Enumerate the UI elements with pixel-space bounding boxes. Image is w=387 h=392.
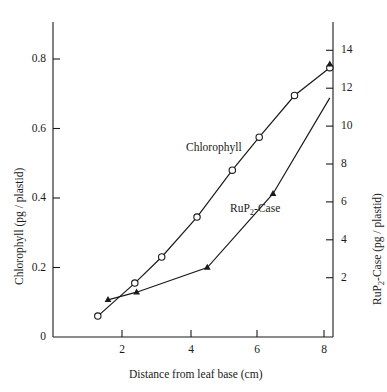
data-point-chlorophyll (229, 167, 235, 173)
right-axis-tick-label: 10 (341, 120, 353, 132)
data-point-chlorophyll (291, 92, 297, 98)
chart-figure: 0.8 0.6 0.4 0.2 0 14 12 10 8 6 4 2 2 4 6… (0, 0, 387, 392)
data-point-chlorophyll (95, 313, 101, 319)
y-axis-title-right: RuP2-Case (pg / plastid) (372, 193, 386, 305)
series-markers-rup2-case (105, 60, 334, 302)
x-axis-tick-label: 4 (176, 344, 206, 356)
series-line-chlorophyll (98, 68, 330, 316)
series-markers-chlorophyll (95, 65, 333, 320)
series-line-rup2-case (108, 98, 330, 300)
series-annotation-chlorophyll: Chlorophyll (186, 142, 242, 154)
data-point-chlorophyll (159, 254, 165, 260)
right-axis-ticks (326, 50, 333, 277)
right-axis-tick-label: 6 (341, 196, 347, 208)
x-axis-tick-label: 8 (309, 344, 339, 356)
left-axis-tick-label: 0 (16, 331, 46, 343)
data-point-chlorophyll (132, 280, 138, 286)
right-axis-tick-label: 8 (341, 158, 347, 170)
y-axis-title-right-prefix: RuP (371, 285, 383, 305)
bottom-axis-ticks (122, 330, 324, 337)
series-annotation-rup2-suffix: -Case (254, 202, 280, 214)
left-axis-ticks (53, 59, 60, 268)
series-annotation-rup2-case: RuP2-Case (230, 203, 280, 217)
data-point-chlorophyll (256, 134, 262, 140)
right-axis-tick-label: 14 (341, 44, 353, 56)
data-point-chlorophyll (194, 214, 200, 220)
x-axis-tick-label: 6 (242, 344, 272, 356)
right-axis-tick-label: 12 (341, 82, 353, 94)
y-axis-title-right-subscript: 2 (376, 281, 386, 285)
y-axis-title-left: Chlorophyll (pg / plastid) (14, 168, 26, 285)
right-axis-tick-label: 4 (341, 234, 347, 246)
data-point-rup2-case (326, 60, 333, 66)
y-axis-title-right-suffix: -Case (pg / plastid) (371, 193, 383, 281)
series-annotation-rup2-prefix: RuP (230, 202, 250, 214)
left-axis-tick-label: 0.6 (16, 123, 46, 135)
plot-area (0, 0, 387, 392)
x-axis-tick-label: 2 (107, 344, 137, 356)
left-axis-tick-label: 0.8 (16, 53, 46, 65)
right-axis-tick-label: 2 (341, 272, 347, 284)
x-axis-title: Distance from leaf base (cm) (129, 369, 262, 381)
